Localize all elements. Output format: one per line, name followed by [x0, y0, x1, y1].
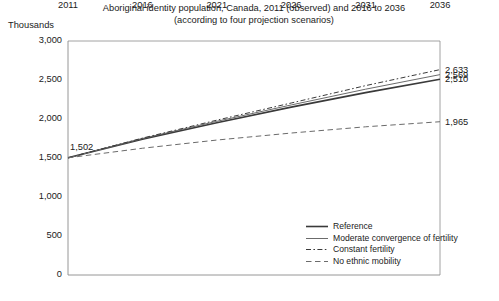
series-line-4	[68, 122, 440, 158]
legend-item: Reference	[306, 221, 458, 233]
series-line-1	[68, 79, 440, 158]
legend-item: No ethnic mobility	[306, 256, 458, 268]
chart-legend: ReferenceModerate convergence of fertili…	[306, 221, 458, 267]
chart-figure: Aboriginal identity population, Canada, …	[0, 0, 499, 301]
legend-item: Constant fertility	[306, 244, 458, 256]
legend-label: Constant fertility	[333, 244, 395, 256]
legend-line-swatch-icon	[306, 234, 328, 243]
legend-line-swatch-icon	[306, 222, 328, 231]
legend-line-swatch-icon	[306, 245, 328, 254]
legend-label: No ethnic mobility	[333, 256, 401, 268]
series-line-2	[68, 75, 440, 158]
legend-item: Moderate convergence of fertility	[306, 233, 458, 245]
legend-label: Reference	[333, 221, 373, 233]
legend-label: Moderate convergence of fertility	[333, 233, 458, 245]
legend-line-swatch-icon	[306, 257, 328, 266]
